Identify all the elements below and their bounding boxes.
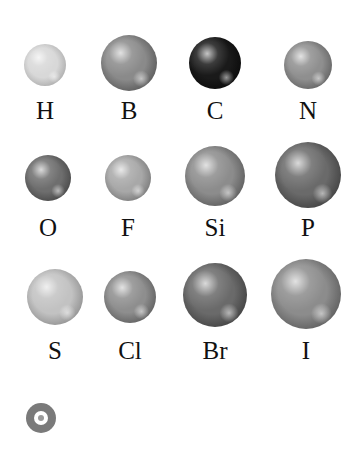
atom-label: O	[8, 215, 88, 240]
target-icon[interactable]	[26, 403, 56, 433]
target-icon-core	[38, 415, 44, 421]
atom-label: F	[88, 215, 168, 240]
atom-label: Si	[175, 215, 255, 240]
atom-label: S	[15, 338, 95, 363]
atom-label: H	[5, 98, 85, 123]
atom-sphere	[183, 263, 247, 327]
atom-sphere	[271, 259, 341, 329]
atom-label: C	[175, 98, 255, 123]
atom-label: N	[268, 98, 348, 123]
atom-sphere	[105, 155, 151, 201]
atom-sphere	[25, 155, 71, 201]
atom-sphere	[185, 146, 245, 206]
atom-label: Br	[175, 338, 255, 363]
atom-sphere	[275, 142, 341, 208]
atom-sphere	[27, 269, 83, 325]
atom-sphere	[101, 35, 157, 91]
atom-label: I	[266, 338, 346, 363]
atom-sphere	[284, 41, 332, 89]
atom-sphere	[104, 271, 156, 323]
atom-label: B	[89, 98, 169, 123]
atom-label: P	[268, 215, 348, 240]
atom-label: Cl	[90, 338, 170, 363]
atom-sphere	[24, 44, 66, 86]
atom-sphere	[189, 37, 241, 89]
